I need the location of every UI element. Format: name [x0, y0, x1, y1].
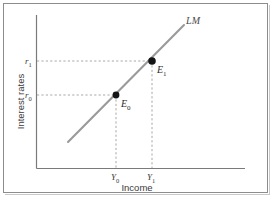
y-tick-label-r1: r1	[25, 56, 32, 68]
point-label-e0: E0	[121, 98, 131, 112]
lm-curve-plot	[0, 0, 274, 206]
point-label-e1: E1	[157, 64, 167, 78]
lm-curve-figure: Income Interest rates r1 r0 Y0 Y1 E0 E1 …	[0, 0, 274, 206]
x-axis-label: Income	[0, 182, 274, 193]
y-axis-label: Interest rates	[15, 52, 26, 152]
y-tick-label-r0: r0	[25, 90, 32, 102]
equilibrium-point-e1	[148, 57, 156, 65]
x-tick-label-y1: Y1	[147, 172, 155, 184]
lm-curve-line	[68, 25, 184, 142]
lm-curve-label: LM	[186, 15, 201, 26]
equilibrium-point-e0	[113, 92, 120, 99]
x-tick-label-y0: Y0	[111, 172, 119, 184]
